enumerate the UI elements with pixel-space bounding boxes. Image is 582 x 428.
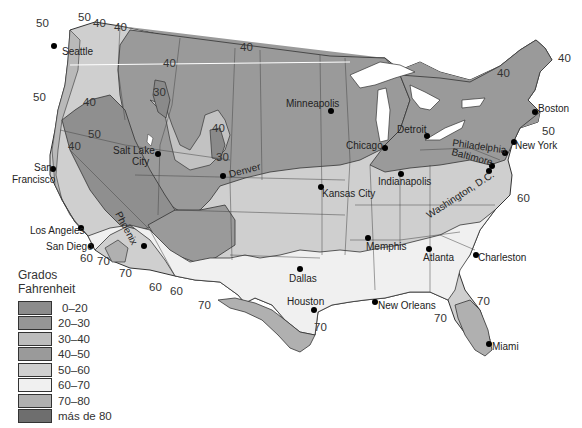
isotherm-label: 30 [216,152,229,164]
isotherm-label: 60 [170,286,183,298]
city-label-houston: Houston [287,297,324,307]
city-label-boston: Boston [538,104,569,114]
isotherm-label: 40 [83,97,96,109]
isotherm-label: 50 [36,18,49,30]
legend-title-line1: Grados [18,268,112,282]
legend: Grados Fahrenheit 0–20 20–30 30–40 40–50… [18,268,112,424]
isotherm-label: 40 [212,123,225,135]
city-label-seattle: Seattle [62,47,93,57]
isotherm-label: 70 [477,296,490,308]
city-label-kansas-city: Kansas City [322,189,375,199]
city-label-miami: Miami [492,342,519,352]
isotherm-label: 40 [240,42,253,54]
legend-swatch-20-30 [18,316,52,330]
isotherm-label: 70 [97,256,110,268]
legend-swatch-70-80 [18,394,52,408]
city-dot-denver [220,173,226,179]
legend-label: 50–60 [58,364,90,376]
isotherm-label: 40 [497,68,510,80]
legend-swatch-30-40 [18,332,52,346]
legend-label: 30–40 [58,333,90,345]
city-label-indianapolis: Indianapolis [378,177,431,187]
legend-label: más de 80 [58,410,112,422]
legend-label: 60–70 [58,379,90,391]
city-label-minneapolis: Minneapolis [286,99,339,109]
legend-label: 0–20 [62,302,88,314]
city-label-memphis: Memphis [366,242,407,252]
isotherm-label: 40 [93,18,106,30]
isotherm-label: 40 [558,53,571,65]
legend-swatch-over-80 [18,409,52,423]
isotherm-label: 50 [542,126,555,138]
legend-label: 70–80 [58,395,90,407]
isotherm-label: 60 [80,253,93,265]
isotherm-label: 70 [314,322,327,334]
legend-swatch-50-60 [18,363,52,377]
city-label-charleston: Charleston [478,253,526,263]
isotherm-label: 60 [517,193,530,205]
city-dot-seattle [51,43,57,49]
isotherm-label: 40 [68,141,81,153]
city-label-san-diego: San Diego [46,242,93,252]
city-dot-dallas [297,266,303,272]
isotherm-label: 40 [114,22,127,34]
city-label-los-angeles: Los Angeles [30,226,85,236]
city-label-chicago: Chicago [346,141,383,151]
isotherm-label: 40 [163,58,176,70]
isotherm-label: 50 [33,92,46,104]
legend-row: más de 80 [18,409,112,425]
isotherm-label: 70 [434,313,447,325]
city-dot-houston [311,307,317,313]
city-dot-salt-lake-city [155,151,161,157]
legend-row: 20–30 [18,316,112,332]
legend-row: 0–20 [18,300,112,316]
legend-row: 30–40 [18,331,112,347]
city-label-salt-lake-city-1: Salt Lake [113,146,155,156]
city-dot-phoenix [141,243,147,249]
isotherm-label: 30 [153,87,166,99]
legend-row: 50–60 [18,362,112,378]
legend-swatch-0-20 [18,301,52,315]
legend-row: 40–50 [18,347,112,363]
city-label-san-francisco-1: San [34,163,52,173]
city-label-new-york: New York [515,141,557,151]
legend-row: 60–70 [18,378,112,394]
isotherm-label: 70 [119,268,132,280]
legend-label: 40–50 [58,348,90,360]
city-label-salt-lake-city-2: City [132,157,149,167]
isotherm-label: 70 [198,300,211,312]
city-label-new-orleans: New Orleans [378,301,436,311]
legend-title-line2: Fahrenheit [18,282,112,296]
legend-swatch-40-50 [18,347,52,361]
city-label-san-francisco-2: Francisco [12,175,55,185]
legend-swatch-60-70 [18,378,52,392]
isotherm-label: 60 [149,282,162,294]
city-label-atlanta: Atlanta [423,253,454,263]
isotherm-label: 50 [88,129,101,141]
isotherm-label: 50 [78,12,91,24]
city-label-dallas: Dallas [289,274,317,284]
legend-row: 70–80 [18,393,112,409]
city-label-detroit: Detroit [397,125,426,135]
legend-label: 20–30 [58,317,90,329]
